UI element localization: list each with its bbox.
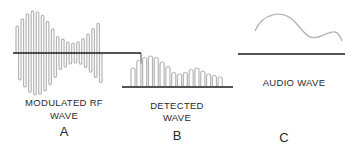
detected-wave-path xyxy=(131,56,222,86)
panel-letter-c: C xyxy=(264,130,304,145)
detected-wave xyxy=(131,56,222,86)
panel-letter-b: B xyxy=(157,128,197,143)
caption-a-line2: WAVE xyxy=(14,110,114,121)
caption-c: AUDIO WAVE xyxy=(249,77,339,88)
audio-wave xyxy=(255,14,342,41)
caption-b-line2: WAVE xyxy=(137,112,217,123)
caption-b-line1: DETECTED xyxy=(137,100,217,111)
caption-a-line1: MODULATED RF xyxy=(14,97,114,108)
panel-letter-a: A xyxy=(44,124,84,139)
